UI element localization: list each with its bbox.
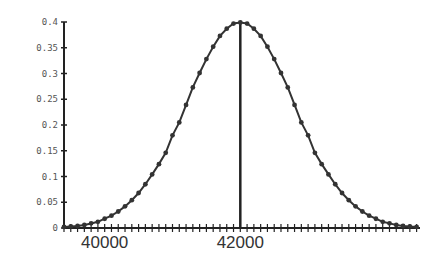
data-point [285,85,290,90]
data-point [143,182,148,187]
y-tick-label: 0.2 [42,120,58,130]
data-point [333,182,338,187]
y-tick-label: 0 [53,223,58,233]
data-point [177,120,182,125]
data-point [62,225,67,230]
data-point [360,209,365,214]
data-point [340,191,345,196]
data-point [184,103,189,108]
data-point [238,20,243,25]
data-point [394,223,399,228]
data-point [401,224,406,229]
data-point [279,71,284,76]
data-point [292,103,297,108]
y-tick-label: 0.1 [42,172,58,182]
data-point [319,162,324,167]
y-tick-label: 0.4 [42,17,58,27]
data-point [190,85,195,90]
data-point [150,172,155,177]
data-point [75,224,80,229]
y-tick-label: 0.25 [36,94,58,104]
data-point [218,34,223,39]
data-point [231,21,236,26]
x-tick-label: 40000 [81,233,128,252]
data-point [380,219,385,224]
x-axis-labels: 4000042000 [81,233,264,252]
data-point [306,133,311,138]
data-point [102,216,107,221]
data-point [123,204,128,209]
y-tick-label: 0.35 [36,43,58,53]
data-point [387,221,392,226]
data-point [109,213,114,218]
y-tick-label: 0.3 [42,69,58,79]
data-point [265,44,270,49]
data-point [299,120,304,125]
y-tick-label: 0.05 [36,197,58,207]
data-point [136,191,141,196]
normal-distribution-chart: 00.050.10.150.20.250.30.350.4 4000042000 [0,0,441,272]
data-point [258,34,263,39]
data-point [251,26,256,31]
data-point [170,133,175,138]
data-point [82,223,87,228]
data-point [157,162,162,167]
data-point [245,21,250,26]
y-axis-ticks: 00.050.10.150.20.250.30.350.4 [36,17,67,233]
data-point [224,26,229,31]
data-point [414,225,419,230]
data-point [312,150,317,155]
data-point [326,172,331,177]
data-point [407,224,412,229]
data-point [96,219,101,224]
data-point [197,71,202,76]
x-tick-label: 42000 [217,233,264,252]
data-point [367,213,372,218]
data-point [163,150,168,155]
data-point [272,57,277,62]
data-point [116,209,121,214]
data-point [204,57,209,62]
data-point [346,198,351,203]
data-point [89,221,94,226]
data-point [68,224,73,229]
data-point [129,198,134,203]
data-point [374,216,379,221]
data-point [353,204,358,209]
data-point [211,44,216,49]
y-tick-label: 0.15 [36,146,58,156]
